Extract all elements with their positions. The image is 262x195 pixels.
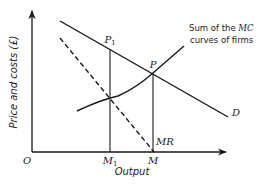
x-axis-label: Output <box>115 166 151 177</box>
marginal-revenue-curve <box>60 38 154 152</box>
p-label: P <box>149 59 157 70</box>
y-axis-label: Price and costs (£) <box>8 35 19 128</box>
m-label: M <box>147 155 159 166</box>
origin-label: O <box>23 155 31 166</box>
y-axis-label-text: Price and costs (£) <box>8 35 19 128</box>
m1-label: M1 <box>102 155 118 168</box>
diagram-canvas: Price and costs (£) Output O P1 P M1 M D… <box>0 0 262 195</box>
mr-label: MR <box>155 136 174 147</box>
mc-note-line2: curves of firms <box>190 35 254 45</box>
mc-note-line1: Sum of the MC <box>189 23 254 33</box>
p1-label: P1 <box>103 34 115 47</box>
demand-label: D <box>231 107 240 118</box>
